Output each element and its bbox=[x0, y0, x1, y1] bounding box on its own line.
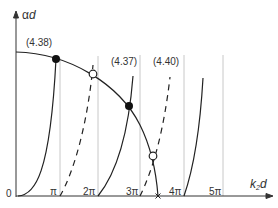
y-axis-alpha: α bbox=[22, 8, 29, 22]
tick-3pi: 3π bbox=[126, 187, 138, 197]
filled-dot-2 bbox=[125, 102, 133, 110]
tick-pi: π bbox=[50, 187, 57, 197]
y-axis-d: d bbox=[29, 8, 36, 22]
filled-dot-1 bbox=[52, 55, 60, 63]
tick-2pi: 2π bbox=[83, 187, 95, 197]
circle-arc-4-38 bbox=[16, 52, 158, 196]
open-dot-1 bbox=[89, 70, 97, 78]
annotation-4-37: (4.37) bbox=[111, 57, 137, 67]
annotation-4-40: (4.40) bbox=[153, 57, 179, 67]
tick-5pi: 5π bbox=[209, 187, 221, 197]
x-axis-label: k2d bbox=[250, 178, 267, 191]
intersection-markers bbox=[52, 55, 157, 160]
x-axis-d: d bbox=[260, 177, 267, 191]
open-dot-2 bbox=[149, 152, 157, 160]
annotation-4-38: (4.38) bbox=[26, 38, 52, 48]
dashed-branches bbox=[60, 65, 170, 196]
tick-4pi: 4π bbox=[169, 187, 181, 197]
y-axis-label: αd bbox=[22, 9, 36, 21]
dispersion-diagram bbox=[0, 0, 278, 208]
origin-label: 0 bbox=[6, 189, 12, 199]
solid-branches bbox=[18, 59, 203, 196]
